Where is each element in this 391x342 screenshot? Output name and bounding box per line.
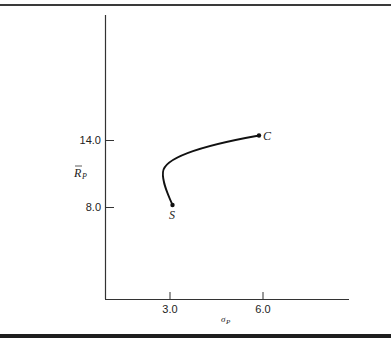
x-axis-label: σ P <box>221 314 231 326</box>
svg-text:P: P <box>81 172 87 181</box>
frontier-curve <box>163 136 259 206</box>
chart: 3.0 6.0 14.0 8.0 R P σ P S C <box>0 0 391 342</box>
x-tick-label-3: 3.0 <box>162 303 177 315</box>
point-s-marker <box>170 203 174 207</box>
y-axis-label: R P <box>73 166 87 181</box>
y-tick-label-14: 14.0 <box>80 134 101 146</box>
svg-text:R: R <box>73 166 82 180</box>
y-tick-label-8: 8.0 <box>86 201 101 213</box>
point-c-marker <box>257 133 261 137</box>
svg-text:P: P <box>225 318 231 326</box>
point-s-label: S <box>169 208 175 222</box>
x-tick-label-6: 6.0 <box>255 303 270 315</box>
point-c-label: C <box>263 129 272 143</box>
